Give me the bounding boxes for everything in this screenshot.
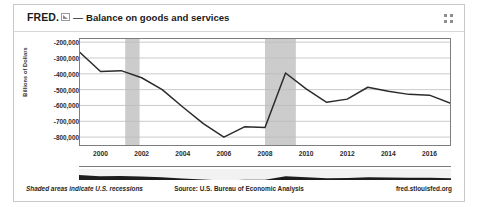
chart-title-block: FRED. — Balance on goods and services — [27, 11, 229, 23]
chart-header: FRED. — Balance on goods and services — [14, 5, 464, 32]
expand-corner-top-right — [450, 14, 453, 17]
expand-corner-top-left — [444, 14, 447, 17]
x-axis-tick-label: 2006 — [216, 150, 231, 157]
y-axis-tick-label: -500,000 — [54, 86, 79, 93]
expand-corner-bottom-right — [450, 20, 453, 23]
y-axis-tick-label: -300,000 — [54, 54, 79, 61]
x-axis-tick-label: 2008 — [258, 150, 273, 157]
range-navigator[interactable] — [79, 166, 451, 181]
fred-wordmark: FRED. — [27, 11, 59, 23]
y-axis-tick-label: -700,000 — [54, 118, 79, 125]
x-axis-tick-label: 2002 — [134, 150, 149, 157]
x-axis-tick-label: 2010 — [299, 150, 314, 157]
page-title: Balance on goods and services — [86, 12, 229, 23]
expand-corner-bottom-left — [444, 20, 447, 23]
data-source-note: Source: U.S. Bureau of Economic Analysis — [174, 185, 304, 192]
y-axis-tick-label: -800,000 — [54, 134, 79, 141]
fullscreen-expand-icon[interactable] — [444, 14, 453, 23]
y-axis-tick-labels: -200,000-300,000-400,000-500,000-600,000… — [33, 32, 79, 152]
y-axis-tick-label: -200,000 — [54, 39, 79, 46]
recession-legend-note: Shaded areas indicate U.S. recessions — [26, 185, 143, 192]
x-axis-tick-label: 2014 — [381, 150, 396, 157]
fred-chart-widget: FRED. — Balance on goods and services Bi… — [13, 4, 465, 202]
y-axis-tick-label: -600,000 — [54, 102, 79, 109]
x-axis-tick-label: 2016 — [422, 150, 437, 157]
recession-band — [125, 39, 139, 145]
chart-body: Billions of Dollars -200,000-300,000-400… — [14, 32, 464, 166]
recession-band — [265, 39, 296, 145]
chart-footer: Shaded areas indicate U.S. recessions So… — [14, 183, 464, 197]
plot-area — [79, 38, 451, 146]
y-axis-tick-label: -400,000 — [54, 70, 79, 77]
x-axis-tick-labels: 200020022004200620082010201220142016 — [79, 148, 451, 162]
x-axis-tick-label: 2004 — [175, 150, 190, 157]
navigator-top-rule — [79, 166, 451, 167]
navigator-track[interactable] — [79, 169, 451, 180]
navigator-series-area — [79, 175, 451, 180]
fred-url-link[interactable]: fred.stlouisfed.org — [396, 185, 452, 192]
x-axis-tick-label: 2000 — [93, 150, 108, 157]
title-dash: — — [73, 12, 83, 23]
y-axis-title: Billions of Dollars — [22, 37, 28, 107]
navigator-preview-svg — [79, 172, 451, 180]
chart-plot-svg — [80, 39, 450, 145]
x-axis-tick-label: 2012 — [340, 150, 355, 157]
fred-graph-icon — [61, 13, 70, 21]
